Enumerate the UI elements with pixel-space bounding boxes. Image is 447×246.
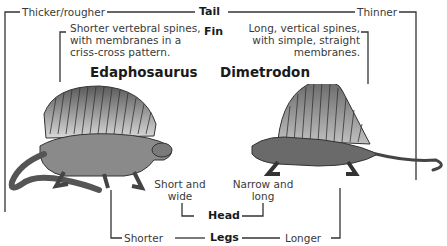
fin-label: Fin [202, 26, 225, 38]
fin-dimetrodon-text: Long, vertical spines, with simple, stra… [240, 22, 360, 58]
legs-edaphosaurus-text: Shorter [122, 232, 165, 244]
legs-label: Legs [208, 232, 241, 244]
legs-dimetrodon-text: Longer [283, 232, 323, 244]
edaphosaurus-title: Edaphosaurus [90, 64, 198, 80]
tail-dimetrodon-text: Thinner [355, 6, 399, 18]
head-edaphosaurus-text: Short and wide [150, 178, 210, 202]
tail-edaphosaurus-text: Thicker/rougher [20, 6, 107, 18]
dimetrodon-title: Dimetrodon [220, 64, 310, 80]
tail-label: Tail [197, 6, 222, 18]
head-label: Head [206, 210, 242, 222]
head-dimetrodon-text: Narrow and long [228, 178, 298, 202]
dimetrodon-illustration [238, 84, 446, 188]
fin-edaphosaurus-text: Shorter vertebral spines, with membranes… [70, 22, 201, 58]
